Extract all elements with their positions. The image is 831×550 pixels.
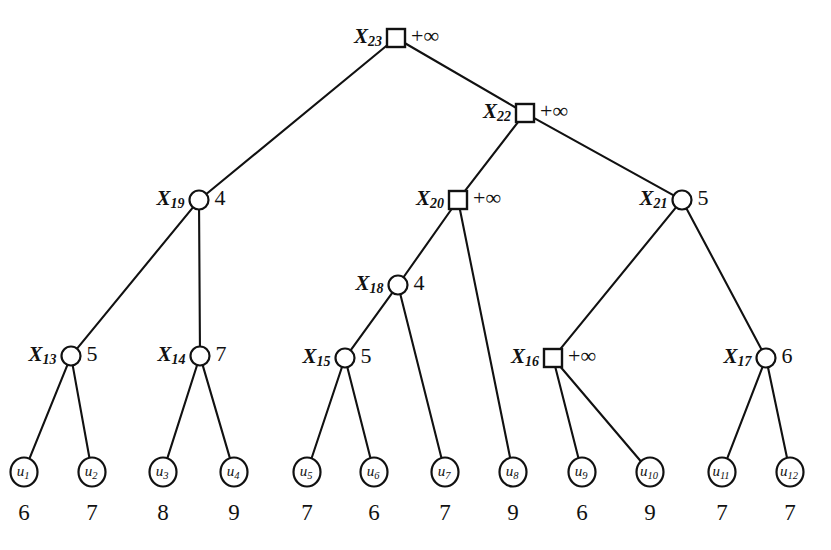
tree-edge bbox=[167, 365, 197, 458]
leaf-payoff: 9 bbox=[507, 500, 519, 525]
square-node-shape bbox=[516, 104, 534, 122]
node-label: X15 bbox=[301, 344, 330, 369]
tree-leaf-u12[interactable]: u127 bbox=[777, 458, 804, 526]
node-label: X18 bbox=[354, 271, 383, 296]
node-label: X17 bbox=[722, 344, 752, 369]
leaf-payoff: 9 bbox=[644, 500, 656, 525]
tree-leaf-u9[interactable]: u96 bbox=[569, 458, 596, 526]
leaf-payoff: 7 bbox=[86, 500, 98, 525]
tree-node-x13[interactable]: X135 bbox=[27, 341, 97, 367]
tree-leaf-u4[interactable]: u49 bbox=[221, 458, 248, 526]
tree-edge bbox=[351, 293, 393, 351]
tree-node-x14[interactable]: X147 bbox=[156, 341, 226, 367]
tree-node-x20[interactable]: X20+∞ bbox=[415, 185, 501, 211]
tree-edge bbox=[400, 294, 441, 458]
tree-edge bbox=[199, 209, 200, 346]
tree-edge bbox=[312, 367, 342, 458]
node-value: 5 bbox=[361, 343, 372, 368]
leaf-payoff: 8 bbox=[157, 500, 169, 525]
tree-edge bbox=[404, 43, 517, 108]
leaf-payoff: 6 bbox=[18, 500, 30, 525]
tree-leaf-u1[interactable]: u16 bbox=[11, 458, 38, 526]
tree-node-x15[interactable]: X155 bbox=[301, 343, 371, 369]
tree-edge bbox=[555, 367, 578, 458]
leaf-payoff: 7 bbox=[301, 500, 313, 525]
node-label: X20 bbox=[415, 186, 444, 211]
circle-node-shape bbox=[389, 276, 408, 295]
tree-leaf-u8[interactable]: u89 bbox=[500, 458, 527, 526]
leaf-payoff: 7 bbox=[439, 500, 451, 525]
node-label: X23 bbox=[353, 24, 382, 49]
tree-node-x19[interactable]: X194 bbox=[155, 185, 225, 211]
node-label: X16 bbox=[510, 344, 539, 369]
circle-node-shape bbox=[191, 347, 210, 366]
node-value: 4 bbox=[414, 270, 425, 295]
node-value: 6 bbox=[782, 343, 793, 368]
square-node-shape bbox=[387, 29, 405, 47]
square-node-shape bbox=[449, 191, 467, 209]
leaf-payoff: 7 bbox=[784, 500, 796, 525]
node-value: 7 bbox=[216, 341, 227, 366]
circle-node-shape bbox=[62, 347, 81, 366]
circle-node-shape bbox=[757, 349, 776, 368]
node-value: 4 bbox=[215, 185, 226, 210]
circle-node-shape bbox=[336, 349, 355, 368]
tree-edge bbox=[77, 207, 193, 348]
tree-edge bbox=[403, 208, 452, 277]
tree-edge bbox=[460, 209, 510, 457]
tree-canvas: X23+∞X22+∞X194X20+∞X215X184X135X147X155X… bbox=[0, 0, 831, 550]
leaf-payoff: 9 bbox=[228, 500, 240, 525]
tree-node-x16[interactable]: X16+∞ bbox=[510, 343, 596, 369]
edges-layer bbox=[29, 43, 787, 461]
tree-edge bbox=[206, 44, 388, 194]
tree-edge bbox=[727, 367, 762, 459]
node-value: +∞ bbox=[540, 98, 568, 123]
tree-leaf-u5[interactable]: u57 bbox=[294, 458, 321, 526]
tree-edge bbox=[533, 118, 673, 196]
tree-node-x22[interactable]: X22+∞ bbox=[482, 98, 568, 124]
tree-edge bbox=[73, 365, 90, 457]
node-value: +∞ bbox=[473, 185, 501, 210]
tree-edge bbox=[464, 121, 519, 193]
game-tree-figure: X23+∞X22+∞X194X20+∞X215X184X135X147X155X… bbox=[0, 0, 831, 550]
tree-leaf-u11[interactable]: u117 bbox=[709, 458, 736, 526]
tree-edge bbox=[203, 365, 230, 458]
circle-node-shape bbox=[190, 191, 209, 210]
tree-node-x23[interactable]: X23+∞ bbox=[353, 23, 439, 49]
square-node-shape bbox=[544, 349, 562, 367]
nodes-layer: X23+∞X22+∞X194X20+∞X215X184X135X147X155X… bbox=[27, 23, 792, 369]
leaf-payoff: 7 bbox=[716, 500, 728, 525]
tree-leaf-u3[interactable]: u38 bbox=[150, 458, 177, 526]
node-label: X19 bbox=[155, 186, 184, 211]
node-label: X14 bbox=[156, 342, 185, 367]
tree-edge bbox=[29, 365, 67, 459]
leaf-payoff: 6 bbox=[576, 500, 588, 525]
node-value: +∞ bbox=[568, 343, 596, 368]
node-value: +∞ bbox=[411, 23, 439, 48]
leaf-payoff: 6 bbox=[368, 500, 380, 525]
tree-node-x17[interactable]: X176 bbox=[722, 343, 792, 369]
tree-edge bbox=[768, 367, 787, 458]
leaves-layer: u16u27u38u49u57u66u77u89u96u109u117u127 bbox=[11, 458, 804, 526]
tree-edge bbox=[686, 208, 761, 349]
tree-leaf-u10[interactable]: u109 bbox=[637, 458, 664, 526]
tree-leaf-u6[interactable]: u66 bbox=[361, 458, 388, 526]
node-label: X13 bbox=[27, 342, 56, 367]
tree-node-x18[interactable]: X184 bbox=[354, 270, 424, 296]
node-value: 5 bbox=[698, 185, 709, 210]
circle-node-shape bbox=[673, 191, 692, 210]
tree-edge bbox=[559, 365, 640, 461]
tree-edge bbox=[347, 367, 370, 458]
tree-leaf-u7[interactable]: u77 bbox=[432, 458, 459, 526]
node-value: 5 bbox=[87, 341, 98, 366]
tree-leaf-u2[interactable]: u27 bbox=[79, 458, 106, 526]
tree-edge bbox=[559, 207, 676, 350]
tree-node-x21[interactable]: X215 bbox=[638, 185, 708, 211]
